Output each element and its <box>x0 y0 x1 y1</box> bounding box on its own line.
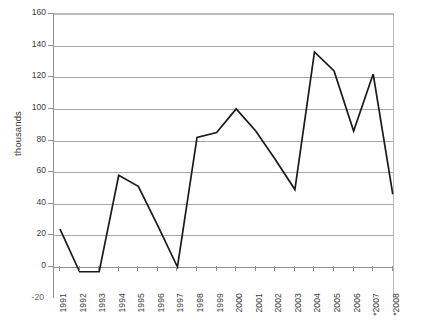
x-axis-tick-label-2008: *2008 <box>391 293 400 320</box>
y-axis-tick-label-40: 40 <box>24 198 46 207</box>
y-axis-tick-label-160: 160 <box>24 8 46 17</box>
x-axis-tick-labels: 1991199219931994199519961997199819992000… <box>53 272 394 315</box>
x-axis-tick-2005 <box>333 266 334 271</box>
x-axis-tick-label-1995: 1995 <box>137 293 146 320</box>
x-axis-tick-2006 <box>353 266 354 271</box>
y-axis-tick-label-140: 140 <box>24 40 46 49</box>
x-axis-tick-1992 <box>79 266 80 271</box>
x-axis-tick-label-2007: *2007 <box>372 293 381 320</box>
x-axis-tick-label-1993: 1993 <box>98 293 107 320</box>
x-axis-tick-1996 <box>157 266 158 271</box>
x-axis-tick-label-1997: 1997 <box>176 293 185 320</box>
y-axis-tick-label-100: 100 <box>24 103 46 112</box>
y-axis-tick-label-60: 60 <box>24 166 46 175</box>
x-axis-tick-2008 <box>392 266 393 271</box>
x-axis-tick-2003 <box>294 266 295 271</box>
y-axis-tick-label-80: 80 <box>24 135 46 144</box>
x-axis-tick-label-2001: 2001 <box>254 293 263 320</box>
x-axis-tick-label-1991: 1991 <box>59 293 68 320</box>
x-axis-tick-1997 <box>176 266 177 271</box>
y-axis-tick-labels: 160140120100806040200 <box>22 0 46 315</box>
plot-area <box>53 13 394 298</box>
y-axis-tick-label-0: 0 <box>24 261 46 270</box>
x-axis-tick-1995 <box>137 266 138 271</box>
x-axis-tick-2000 <box>235 266 236 271</box>
x-axis-tick-label-1998: 1998 <box>196 293 205 320</box>
x-axis-tick-1994 <box>118 266 119 271</box>
x-axis-tick-label-2002: 2002 <box>274 293 283 320</box>
x-axis-tick-label-1999: 1999 <box>215 293 224 320</box>
y-axis-tick-label-20: 20 <box>24 229 46 238</box>
x-axis-tick-label-1992: 1992 <box>78 293 87 320</box>
x-axis-tick-label-2006: 2006 <box>352 293 361 320</box>
y-axis-tick-label-minus20: -20 <box>22 292 44 302</box>
x-axis-tick-label-2004: 2004 <box>313 293 322 320</box>
x-axis-tick-2004 <box>313 266 314 271</box>
x-axis-tick-1993 <box>98 266 99 271</box>
y-axis-title: thousands <box>12 89 23 179</box>
x-axis-tick-label-2005: 2005 <box>333 293 342 320</box>
x-axis-tick-2007 <box>372 266 373 271</box>
x-axis-tick-2001 <box>255 266 256 271</box>
x-axis-tick-label-1996: 1996 <box>157 293 166 320</box>
x-axis-tick-label-2003: 2003 <box>294 293 303 320</box>
x-axis-tick-1999 <box>216 266 217 271</box>
series-line <box>54 14 395 299</box>
x-axis-tick-label-1994: 1994 <box>117 293 126 320</box>
x-axis-tick-1998 <box>196 266 197 271</box>
x-axis-tick-2002 <box>274 266 275 271</box>
x-axis-tick-1991 <box>59 266 60 271</box>
x-axis-tick-label-2000: 2000 <box>235 293 244 320</box>
y-axis-tick-label-120: 120 <box>24 71 46 80</box>
